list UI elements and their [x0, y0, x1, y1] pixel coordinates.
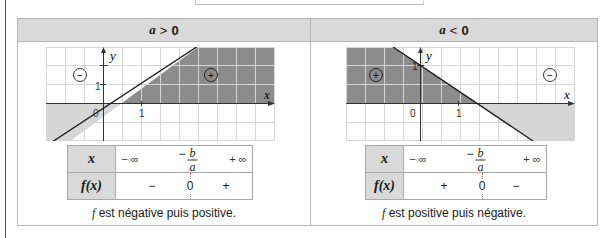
fraction-b-over-a: ba [188, 148, 198, 173]
x-values-row: − ∞ −ba + ∞ [404, 146, 547, 173]
top-strip [195, 0, 424, 5]
sign-values-row: + 0 − [404, 173, 547, 200]
x-tick-label: 1 [456, 108, 462, 119]
root-value: −ba [178, 146, 197, 173]
sign-right: + [222, 179, 229, 193]
negative-sign-icon: − [77, 70, 83, 81]
fraction-denominator: a [478, 162, 484, 173]
column-a-negative: a < 0 [311, 19, 597, 225]
zero-value: 0 [186, 179, 195, 193]
zero-value: 0 [478, 179, 487, 193]
origin-label: 0 [93, 108, 99, 119]
sign-left: + [440, 179, 447, 193]
caption-a-positive: f est négative puis positive. [18, 206, 310, 221]
fraction-numerator: b [190, 148, 196, 159]
x-values-row: − ∞ −ba + ∞ [116, 146, 253, 173]
sign-table-a-negative: x − ∞ −ba + ∞ f(x) + 0 − [365, 145, 547, 200]
caption-text: est positive puis négative. [385, 206, 526, 220]
y-axis-label: y [424, 48, 432, 63]
sign-right: − [512, 179, 519, 193]
root-value: −ba [466, 146, 485, 173]
row-header-fx: f(x) [366, 173, 404, 200]
y-axis-label: y [108, 48, 116, 63]
caption-text: est négative puis positive. [95, 206, 236, 220]
row-header-fx: f(x) [68, 173, 116, 200]
x-tick-label: 1 [139, 108, 145, 119]
sign-study-table: a > 0 [17, 18, 598, 226]
column-header-a-positive: a > 0 [18, 19, 310, 42]
x-axis-label: x [263, 87, 270, 102]
y-tick-label: 1 [95, 81, 101, 92]
header-value: 0 [171, 23, 178, 38]
header-value: 0 [461, 23, 468, 38]
caption-a-negative: f est positive puis négative. [311, 206, 597, 221]
header-relation: > [160, 23, 168, 38]
positive-sign-icon: + [208, 70, 214, 81]
root-minus: − [466, 146, 473, 160]
row-header-x: x [366, 146, 404, 173]
root-minus: − [178, 146, 185, 160]
origin-label: 0 [410, 108, 416, 119]
header-relation: < [450, 23, 458, 38]
column-header-a-negative: a < 0 [311, 19, 597, 42]
minus-infinity: − ∞ [121, 153, 138, 165]
graph-increasing-line: y x 1 0 1 − + [46, 47, 276, 141]
row-header-x: x [68, 146, 116, 173]
positive-sign-icon: + [373, 70, 379, 81]
negative-sign-icon: − [547, 70, 553, 81]
fraction-b-over-a: ba [476, 148, 486, 173]
column-a-positive: a > 0 [18, 19, 311, 225]
sign-table-a-positive: x − ∞ −ba + ∞ f(x) − 0 + [67, 145, 253, 200]
sign-values-row: − 0 + [116, 173, 253, 200]
page-margin-rule [5, 0, 6, 238]
header-var: a [149, 22, 156, 38]
graph-decreasing-line: y x 1 0 1 + − [346, 47, 576, 141]
fraction-numerator: b [478, 148, 484, 159]
plus-infinity: + ∞ [523, 153, 540, 165]
x-axis-label: x [563, 87, 570, 102]
fraction-denominator: a [190, 162, 196, 173]
minus-infinity: − ∞ [409, 153, 426, 165]
plus-infinity: + ∞ [229, 153, 246, 165]
y-tick-label: 1 [412, 61, 418, 72]
header-var: a [439, 22, 446, 38]
sign-left: − [148, 179, 155, 193]
